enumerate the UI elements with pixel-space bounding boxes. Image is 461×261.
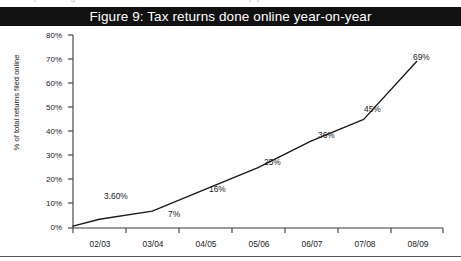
x-tick-label: 02/03: [74, 239, 126, 249]
x-tick-label: 07/08: [339, 239, 391, 249]
cutoff-text-strip: the percentage of tax returns filed onli…: [0, 0, 461, 6]
x-tick-label: 05/06: [233, 239, 285, 249]
data-line-series: [73, 62, 417, 227]
bottom-rule: [0, 256, 461, 257]
x-tick-label: 06/07: [286, 239, 338, 249]
data-point-label: 25%: [264, 157, 281, 167]
plot-svg: [0, 26, 461, 254]
data-point-label: 69%: [413, 52, 430, 62]
x-tick-label: 08/09: [392, 239, 444, 249]
cutoff-text: the percentage of tax returns filed onli…: [18, 0, 261, 2]
x-tick-label: 03/04: [127, 239, 179, 249]
data-point-label: 45%: [364, 104, 381, 114]
data-point-label: 3.60%: [104, 191, 128, 201]
page-title: Figure 9: Tax returns done online year-o…: [89, 10, 371, 24]
figure-title-band: Figure 9: Tax returns done online year-o…: [0, 7, 461, 26]
x-tick-marks: [73, 228, 443, 233]
x-tick-label: 04/05: [180, 239, 232, 249]
data-point-label: 16%: [209, 184, 226, 194]
data-point-label: 7%: [168, 209, 180, 219]
data-point-label: 36%: [318, 130, 335, 140]
figure-page: the percentage of tax returns filed onli…: [0, 0, 461, 261]
chart-area: % of total returns filed online 80% 70% …: [0, 26, 461, 254]
y-tick-marks: [68, 35, 73, 228]
